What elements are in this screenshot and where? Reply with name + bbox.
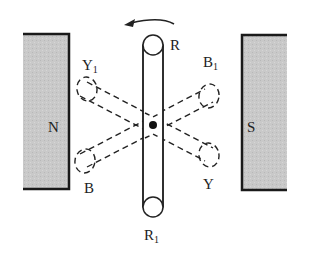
- rotation-arrow-icon: [124, 19, 174, 27]
- label-b1: B1: [203, 55, 218, 72]
- label-y1: Y1: [82, 58, 98, 75]
- label-r: R: [170, 38, 180, 53]
- label-y: Y: [203, 177, 214, 192]
- rotor-axis-dot: [149, 121, 157, 129]
- north-pole-magnet: [23, 33, 69, 189]
- label-b: B: [84, 181, 94, 196]
- label-r1: R1: [144, 228, 159, 245]
- south-pole-magnet: [241, 34, 287, 190]
- label-south: S: [247, 120, 255, 135]
- label-north: N: [48, 120, 59, 135]
